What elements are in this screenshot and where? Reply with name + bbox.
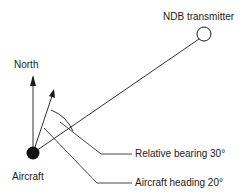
ndb-transmitter-label: NDB transmitter — [163, 12, 234, 22]
ndb-transmitter-icon — [197, 27, 211, 41]
aircraft-label: Aircraft — [12, 172, 44, 182]
aircraft-icon — [27, 147, 40, 160]
aircraft-heading-label: Aircraft heading 20° — [135, 178, 223, 188]
diagram-canvas — [0, 0, 250, 196]
bearing-line-to-ndb — [33, 39, 199, 153]
relative-bearing-label: Relative bearing 30° — [135, 149, 225, 159]
heading-arrow — [33, 93, 53, 153]
north-label: North — [14, 60, 38, 70]
north-arrowhead-icon — [30, 75, 36, 86]
heading-arrowhead-icon — [49, 89, 55, 98]
